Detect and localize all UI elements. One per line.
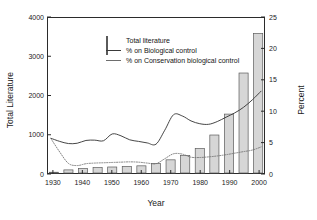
plot-area: Total literature % on Biological control…	[47, 17, 265, 174]
bar	[195, 149, 204, 173]
y-axis-right-tick-label: 0	[269, 171, 291, 178]
x-axis-tick-label: 1930	[39, 179, 67, 186]
bar	[122, 166, 131, 173]
x-axis-tick-label: 1940	[68, 179, 96, 186]
x-axis-tick-label: 1990	[216, 179, 244, 186]
y-axis-right-tick-label: 5	[269, 139, 291, 146]
y-axis-right-tick-label: 25	[269, 14, 291, 21]
bar	[64, 170, 73, 173]
chart-legend: Total literature % on Biological control…	[106, 36, 239, 66]
legend-swatch-icon	[106, 37, 121, 45]
bar	[137, 166, 146, 173]
x-axis-tick-label: 1970	[157, 179, 185, 186]
legend-label: % on Biological control	[126, 47, 197, 55]
chart-figure: Total Literature Percent Year 0100020003…	[0, 0, 317, 220]
y-axis-left-title: Total Literature	[5, 58, 15, 142]
x-axis-tick-label: 1960	[127, 179, 155, 186]
bar	[239, 73, 248, 173]
legend-item-total-literature: Total literature	[106, 36, 239, 45]
legend-item-conservation-biological-control: % on Conservation biological control	[106, 56, 239, 65]
legend-thin-line-icon	[106, 57, 121, 65]
x-axis-title: Year	[47, 198, 265, 208]
legend-item-biological-control: % on Biological control	[106, 46, 239, 55]
bar	[49, 172, 58, 173]
bar	[108, 167, 117, 173]
bar	[181, 156, 190, 173]
y-axis-left-title-wrap: Total Literature	[2, 0, 16, 220]
legend-label: Total literature	[126, 37, 170, 45]
y-axis-right-tick-label: 10	[269, 108, 291, 115]
y-axis-right-title: Percent	[296, 65, 306, 135]
y-axis-left-tick-label: 3000	[8, 53, 44, 60]
bar	[224, 114, 233, 173]
y-axis-right-tick-label: 15	[269, 76, 291, 83]
y-axis-left-tick-label: 0	[8, 171, 44, 178]
legend-solid-line-icon	[106, 47, 121, 55]
x-axis-tick-label: 1980	[186, 179, 214, 186]
y-axis-right-title-wrap: Percent	[294, 0, 308, 220]
y-axis-right-tick-label: 20	[269, 45, 291, 52]
bar	[210, 135, 219, 173]
y-axis-left-tick-label: 4000	[8, 14, 44, 21]
bar	[151, 164, 160, 173]
x-axis-tick-label: 2000	[245, 179, 273, 186]
legend-label: % on Conservation biological control	[126, 57, 239, 65]
y-axis-left-tick-label: 1000	[8, 131, 44, 138]
bar	[93, 168, 102, 173]
y-axis-left-tick-label: 2000	[8, 92, 44, 99]
bar	[78, 169, 87, 173]
bar	[254, 34, 263, 174]
bar	[166, 160, 175, 173]
x-axis-tick-label: 1950	[98, 179, 126, 186]
